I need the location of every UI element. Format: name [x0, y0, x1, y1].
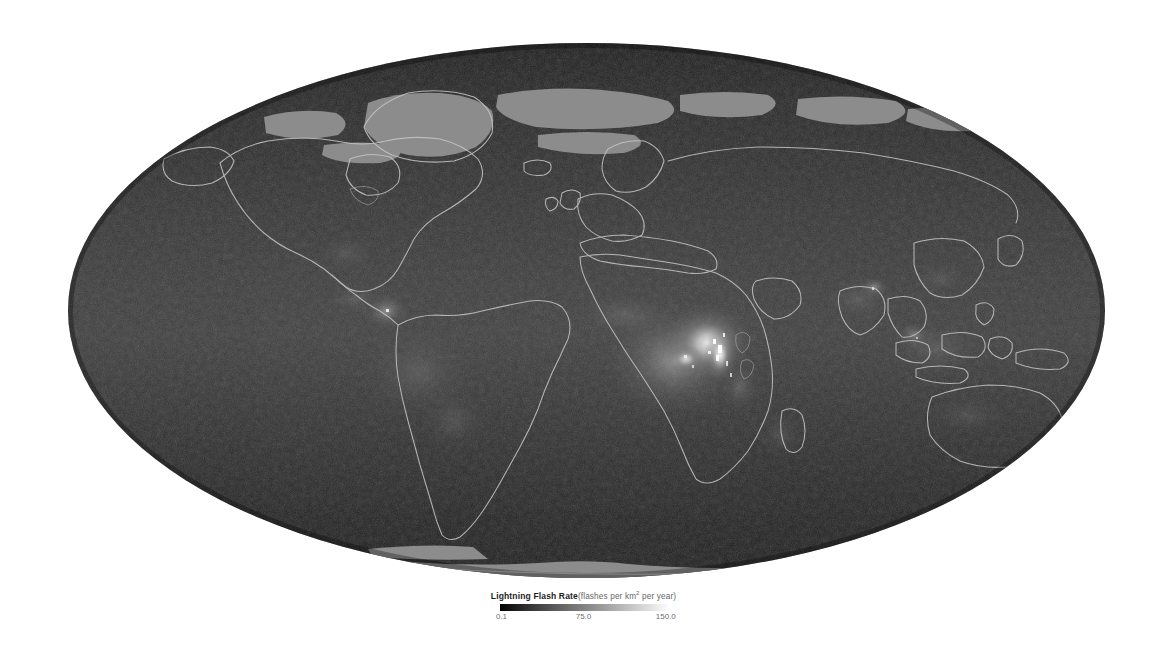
colorbar-tick-labels: 0.1 75.0 150.0	[500, 612, 668, 625]
globe-disc	[68, 43, 1105, 578]
colorbar-tick-max: 150.0	[656, 612, 676, 621]
legend-title: Lightning Flash Rate	[491, 591, 578, 601]
map-canvas	[68, 43, 1105, 578]
legend-units-head: (flashes per km	[578, 592, 636, 601]
colorbar-wrapper: 0.1 75.0 150.0	[500, 604, 668, 625]
legend-units-tail: per year)	[640, 592, 677, 601]
map-legend: Lightning Flash Rate(flashes per km2 per…	[0, 588, 1167, 625]
colorbar-tick-mid: 75.0	[576, 612, 592, 621]
colorbar-tick-min: 0.1	[496, 612, 507, 621]
lightning-flash-rate-figure: Lightning Flash Rate(flashes per km2 per…	[0, 0, 1167, 664]
colorbar-gradient	[500, 604, 668, 611]
world-map	[68, 43, 1105, 578]
legend-caption: Lightning Flash Rate(flashes per km2 per…	[0, 588, 1167, 602]
legend-units: (flashes per km2 per year)	[578, 592, 676, 601]
